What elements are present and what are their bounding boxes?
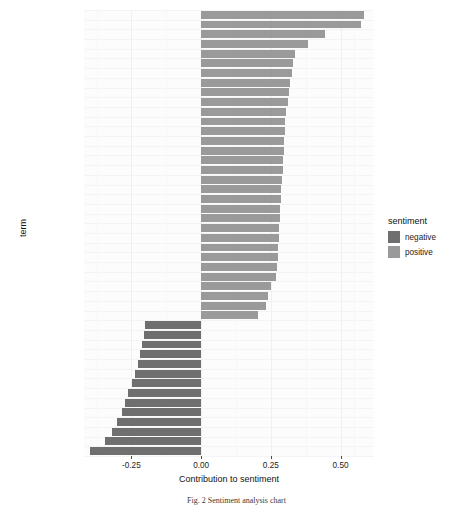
bar-row [84,340,374,350]
bar[interactable] [201,98,287,106]
bar[interactable] [201,234,279,242]
legend-color-swatch [388,246,400,258]
bar[interactable] [201,59,293,67]
bar-row [84,155,374,165]
bar[interactable] [201,214,280,222]
bar[interactable] [201,176,282,184]
bar-row [84,10,374,20]
bar[interactable] [90,447,202,455]
bar-row [84,126,374,136]
bar-row [84,437,374,447]
bar-row [84,107,374,117]
bar-row [84,359,374,369]
bar-row [84,349,374,359]
bar-row [84,446,374,456]
bar[interactable] [201,185,281,193]
bar-row [84,136,374,146]
bar[interactable] [201,137,284,145]
legend-label: positive [405,248,433,257]
bar[interactable] [201,282,271,290]
bar[interactable] [201,88,289,96]
bar[interactable] [201,127,285,135]
x-axis-tick-label: 0.50 [333,461,349,470]
bar-row [84,243,374,253]
bar-row [84,49,374,59]
bar-row [84,29,374,39]
bar-row [84,388,374,398]
bar[interactable] [201,273,276,281]
bar[interactable] [201,263,277,271]
x-axis-tick-label: 0.00 [193,461,209,470]
bar[interactable] [201,244,278,252]
bar-row [84,408,374,418]
bar[interactable] [201,147,284,155]
bar[interactable] [201,292,268,300]
legend-title: sentiment [388,216,468,226]
legend-label: negative [405,233,436,242]
bar[interactable] [135,370,201,378]
bar[interactable] [201,79,290,87]
bar[interactable] [201,11,364,19]
bar[interactable] [142,341,201,349]
figure-caption: Fig. 2 Sentiment analysis chart [0,496,473,508]
bar-row [84,291,374,301]
bar[interactable] [201,205,280,213]
bar-row [84,233,374,243]
bar-row [84,427,374,437]
bar-row [84,20,374,30]
bar[interactable] [201,311,258,319]
bar-row [84,68,374,78]
bar-row [84,330,374,340]
x-axis-tick-mark [131,456,132,459]
bar-row [84,262,374,272]
bar[interactable] [145,321,201,329]
bar[interactable] [112,428,201,436]
bar[interactable] [201,50,294,58]
bar-row [84,117,374,127]
bar-row [84,223,374,233]
bar[interactable] [105,437,201,445]
bar-row [84,78,374,88]
bar[interactable] [201,224,279,232]
bar[interactable] [201,30,325,38]
bar[interactable] [122,408,201,416]
bar-row [84,311,374,321]
bar[interactable] [201,156,283,164]
bar-row [84,194,374,204]
bar-row [84,88,374,98]
bar-row [84,272,374,282]
bar-row [84,204,374,214]
legend-item-negative[interactable]: negative [388,231,468,243]
x-axis-title: Contribution to sentiment [84,474,374,484]
bar[interactable] [117,418,201,426]
bar[interactable] [128,389,201,397]
bar[interactable] [125,399,201,407]
bar[interactable] [132,379,201,387]
legend-item-positive[interactable]: positive [388,246,468,258]
bar[interactable] [201,253,277,261]
bar[interactable] [138,360,202,368]
bar[interactable] [201,166,282,174]
bar-row [84,165,374,175]
bar-row [84,378,374,388]
bar[interactable] [201,21,361,29]
bar[interactable] [201,69,292,77]
bar[interactable] [140,350,201,358]
bar-row [84,39,374,49]
bar[interactable] [201,118,285,126]
bar[interactable] [201,108,286,116]
x-axis-tick-label: 0.25 [263,461,279,470]
bar-row [84,252,374,262]
bar[interactable] [201,40,308,48]
y-axis-title-text: term [18,219,28,237]
bar-row [84,417,374,427]
bar[interactable] [201,302,266,310]
x-axis-tick-mark [341,456,342,459]
bar-row [84,58,374,68]
x-axis-tick-mark [271,456,272,459]
bar-row [84,146,374,156]
bar[interactable] [144,331,201,339]
bar-row [84,301,374,311]
bar-row [84,185,374,195]
bar[interactable] [201,195,281,203]
